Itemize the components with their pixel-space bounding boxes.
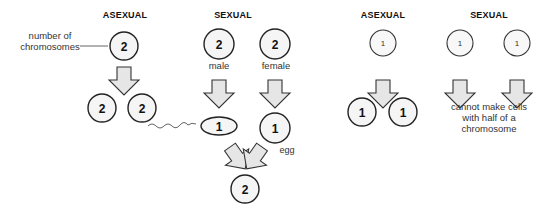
right-asexual-group: ASEXUAL 1 1 1	[348, 10, 417, 126]
right-asexual-parent-cell: 1	[370, 30, 396, 56]
egg-cell: 1	[260, 113, 290, 143]
left-asexual-offspring-cell-2: 2	[128, 94, 156, 122]
sperm-tail	[148, 123, 196, 129]
down-arrow-icon	[109, 67, 139, 95]
zygote-cell: 2	[231, 175, 259, 203]
reproduction-diagram: ASEXUAL number of chromosomes 2 2 2 SEXU…	[0, 0, 547, 213]
result-line-1: cannot make cells	[451, 101, 527, 112]
female-parent-cell: 2	[260, 29, 290, 59]
cell-number: 1	[400, 106, 407, 120]
egg-label: egg	[279, 145, 294, 155]
annotation-line-2: chromosomes	[20, 41, 80, 52]
cell-number: 2	[121, 40, 128, 54]
right-sexual-parent-cell-2: 1	[504, 30, 530, 56]
down-arrow-icon	[260, 80, 290, 108]
male-label: male	[209, 60, 230, 71]
left-sexual-heading: SEXUAL	[214, 10, 252, 20]
cell-number: 1	[272, 122, 279, 136]
right-sexual-group: SEXUAL 1 1 cannot make cells with half o…	[445, 10, 532, 134]
left-asexual-heading: ASEXUAL	[103, 10, 148, 20]
result-line-2: with half of a	[461, 112, 516, 123]
left-asexual-parent-cell: 2	[110, 32, 138, 60]
cell-number: 2	[242, 183, 249, 197]
cell-number: 2	[99, 102, 106, 116]
cell-number: 2	[216, 38, 223, 52]
right-asexual-offspring-cell-1: 1	[348, 98, 376, 126]
right-asexual-heading: ASEXUAL	[361, 10, 406, 20]
right-sexual-parent-cell-1: 1	[447, 30, 473, 56]
female-label: female	[262, 60, 291, 71]
cell-number: 2	[139, 102, 146, 116]
result-line-3: chromosome	[462, 123, 517, 134]
cell-number: 1	[216, 120, 223, 134]
left-sexual-group: SEXUAL 2 male 2 female 1 1 egg 2	[148, 10, 295, 203]
down-arrow-icon	[204, 80, 234, 108]
cell-number: 2	[272, 38, 279, 52]
left-asexual-offspring-cell-1: 2	[88, 94, 116, 122]
sperm-cell: 1	[148, 117, 237, 135]
cell-number: 1	[381, 39, 386, 48]
right-asexual-offspring-cell-2: 1	[389, 98, 417, 126]
left-asexual-group: ASEXUAL number of chromosomes 2 2 2	[20, 10, 156, 122]
male-parent-cell: 2	[204, 29, 234, 59]
annotation-line-1: number of	[29, 30, 72, 41]
cell-number: 1	[359, 106, 366, 120]
right-sexual-heading: SEXUAL	[470, 10, 508, 20]
cell-number: 1	[515, 39, 520, 48]
cell-number: 1	[458, 39, 463, 48]
